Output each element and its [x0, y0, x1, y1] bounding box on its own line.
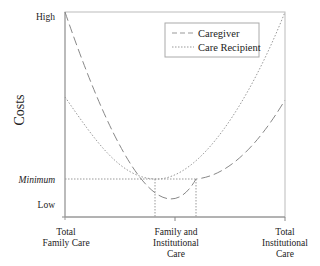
y-tick-minimum: Minimum	[18, 175, 56, 185]
chart: Caregiver Care Recipient High Minimum Lo…	[0, 0, 320, 266]
legend-caregiver: Caregiver	[198, 28, 240, 39]
y-axis-label: Costs	[12, 94, 27, 125]
x-left-line2: Family Care	[42, 238, 89, 248]
y-tick-high: High	[36, 12, 55, 22]
x-right-line2: Institutional	[262, 238, 308, 248]
y-tick-low: Low	[38, 200, 56, 210]
legend: Caregiver Care Recipient	[165, 23, 261, 57]
x-mid-line2: Institutional	[153, 238, 199, 248]
x-right-line1: Total	[275, 227, 295, 237]
x-left-line1: Total	[56, 227, 76, 237]
legend-care-recipient: Care Recipient	[198, 42, 261, 53]
x-mid-line3: Care	[167, 249, 185, 259]
x-mid-line1: Family and	[154, 227, 197, 237]
x-right-line3: Care	[276, 249, 294, 259]
